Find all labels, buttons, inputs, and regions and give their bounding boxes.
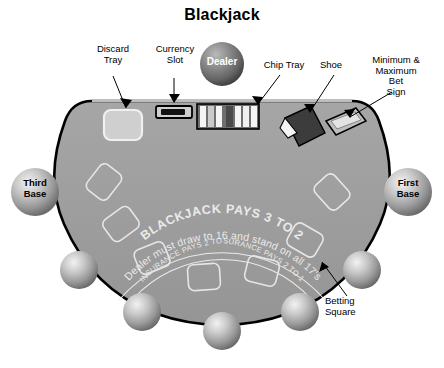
callout-betting-square: Betting Square [325, 296, 381, 317]
callout-bet-sign: Minimum & Maximum Bet Sign [352, 55, 440, 97]
callout-shoe: Shoe [312, 60, 350, 71]
player-position[interactable] [123, 293, 161, 331]
first-base-label: FirstBase [397, 177, 420, 199]
chip-tray[interactable] [197, 104, 259, 129]
discard-tray[interactable] [104, 110, 142, 140]
player-position[interactable] [281, 293, 319, 331]
dealer-label: Dealer [207, 56, 238, 67]
player-position[interactable] [343, 251, 381, 289]
third-base-label: ThirdBase [23, 177, 47, 199]
callout-chip-tray: Chip Tray [253, 60, 315, 71]
callout-discard-tray: Discard Tray [80, 44, 146, 65]
blackjack-table-diagram: Blackjack [0, 0, 444, 368]
currency-slot[interactable] [156, 106, 192, 118]
player-position[interactable] [203, 312, 241, 350]
callout-currency-slot: Currency Slot [141, 44, 209, 65]
player-position[interactable] [60, 251, 98, 289]
